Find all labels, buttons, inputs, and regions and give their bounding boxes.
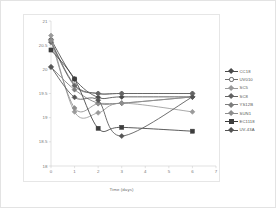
chart-page: 1818.51919.52020.52101234567 Soluble Sol… xyxy=(0,0,276,208)
series-SC8 xyxy=(49,40,195,96)
svg-text:18.5: 18.5 xyxy=(39,139,48,144)
legend-item-ec1118[interactable]: EC1118 xyxy=(225,117,275,125)
legend-label: YS12B xyxy=(238,102,253,107)
svg-text:5: 5 xyxy=(168,169,171,174)
legend-marker-icon xyxy=(225,126,238,134)
series-CC18 xyxy=(49,37,195,100)
legend-marker-icon xyxy=(225,84,238,92)
legend-label: EC1118 xyxy=(238,119,255,124)
legend-label: SC8 xyxy=(238,94,248,99)
x-axis-title: Time (days) xyxy=(23,187,220,192)
svg-text:19: 19 xyxy=(43,115,48,120)
legend-label: UV-43A xyxy=(238,127,255,132)
legend-item-uv-43a[interactable]: UV-43A xyxy=(225,126,275,134)
legend-marker-icon xyxy=(225,109,238,117)
legend-marker-icon xyxy=(225,118,238,126)
svg-text:21: 21 xyxy=(43,19,48,24)
svg-text:20.5: 20.5 xyxy=(39,43,48,48)
chart-legend: CC18UV010SC5SC8YS12BSUN1EC1118UV-43A xyxy=(225,67,275,134)
svg-text:7: 7 xyxy=(215,169,218,174)
svg-text:19.5: 19.5 xyxy=(39,91,48,96)
legend-item-cc18[interactable]: CC18 xyxy=(225,67,275,75)
legend-item-uv010[interactable]: UV010 xyxy=(225,75,275,83)
svg-text:1: 1 xyxy=(73,169,76,174)
svg-text:3: 3 xyxy=(120,169,123,174)
svg-text:2: 2 xyxy=(97,169,100,174)
legend-label: SC5 xyxy=(238,85,248,90)
legend-marker-icon xyxy=(225,67,238,75)
legend-label: CC18 xyxy=(238,69,251,74)
svg-text:20: 20 xyxy=(43,67,48,72)
svg-text:6: 6 xyxy=(191,169,194,174)
series-SUN1 xyxy=(49,38,195,112)
chart-svg: 1818.51919.52020.52101234567 xyxy=(24,15,221,183)
legend-label: SUN1 xyxy=(238,111,251,116)
legend-marker-icon xyxy=(225,92,238,100)
svg-text:0: 0 xyxy=(50,169,53,174)
legend-item-ys12b[interactable]: YS12B xyxy=(225,101,275,109)
legend-item-sc5[interactable]: SC5 xyxy=(225,84,275,92)
svg-text:18: 18 xyxy=(43,164,48,169)
legend-label: UV010 xyxy=(238,77,253,82)
svg-text:4: 4 xyxy=(144,169,147,174)
legend-marker-icon xyxy=(225,101,238,109)
plot-area: 1818.51919.52020.52101234567 xyxy=(23,14,220,182)
legend-item-sc8[interactable]: SC8 xyxy=(225,92,275,100)
legend-item-sun1[interactable]: SUN1 xyxy=(225,109,275,117)
legend-marker-icon xyxy=(225,76,238,84)
